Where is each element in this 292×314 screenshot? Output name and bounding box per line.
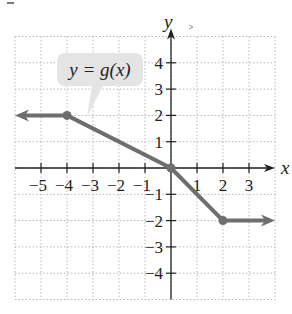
y-tick-label: −3 — [145, 238, 163, 257]
y-tick-label: 4 — [155, 54, 164, 73]
x-tick-label: 2 — [219, 176, 228, 195]
y-tick-label: −4 — [145, 264, 164, 283]
callout-label: y = g(x) — [67, 59, 130, 81]
y-tick-label: 3 — [155, 80, 164, 99]
x-tick-label: −5 — [29, 176, 47, 195]
y-tick-label: 2 — [155, 106, 164, 125]
x-tick-label: 3 — [245, 176, 254, 195]
y-tick-label: 1 — [155, 133, 164, 152]
callout: y = g(x) — [57, 53, 143, 117]
data-point — [219, 216, 228, 225]
x-tick-label: −2 — [107, 176, 125, 195]
data-point — [167, 164, 176, 173]
y-tick-label: −2 — [145, 212, 163, 231]
small-mark-icon — [189, 25, 193, 29]
y-axis-label: y — [162, 11, 173, 32]
x-tick-label: −3 — [81, 176, 99, 195]
x-axis-label: x — [280, 157, 290, 178]
data-point — [63, 111, 72, 120]
x-tick-label: −4 — [55, 176, 74, 195]
function-graph: −5−4−3−2−1123−4−3−2−11234 y = g(x) x y — [0, 0, 292, 314]
y-tick-label: −1 — [145, 185, 163, 204]
